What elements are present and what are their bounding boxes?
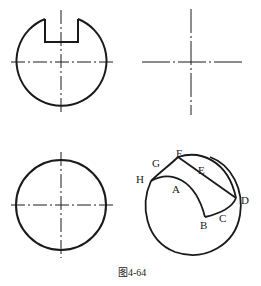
figure-caption: 图4-64 [118,267,146,278]
isometric-sketch [146,155,241,255]
top-view-circle [11,152,113,258]
label-H: H [136,173,144,185]
label-D: D [241,194,249,206]
side-view-centerlines [142,9,244,115]
label-G: G [152,157,160,169]
label-F: F [176,147,182,159]
label-A: A [172,183,180,195]
label-C: C [219,212,226,224]
label-E: E [198,164,205,176]
front-view-with-slot [11,10,113,115]
drawing-canvas: F G H E A D C B 图4-64 [0,0,261,286]
label-B: B [200,219,207,231]
